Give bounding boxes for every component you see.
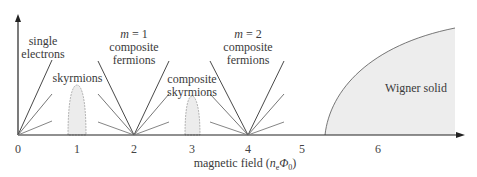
fan-at-0 <box>18 60 52 135</box>
x-tick-2: 2 <box>131 142 137 157</box>
y-axis-arrow <box>15 14 21 22</box>
label-rest: = 2 <box>243 27 262 41</box>
x-tick-0: 0 <box>15 142 21 157</box>
skyrmion-dome <box>68 85 86 135</box>
label-var: m <box>234 27 243 41</box>
x-axis-arrow <box>456 132 465 138</box>
label-skyrmions: skyrmions <box>50 72 105 85</box>
label-composite-skyrmions: composite skyrmions <box>163 73 221 99</box>
label-line: Wigner solid <box>381 82 451 95</box>
x-tick-6: 6 <box>375 142 381 157</box>
composite-skyrmion-dome <box>185 96 200 135</box>
x-tick-3: 3 <box>189 142 195 157</box>
label-line: fermions <box>219 54 277 67</box>
axis-label-phi: Φ <box>279 156 288 170</box>
fan-at-4 <box>210 61 284 135</box>
x-tick-4: 4 <box>245 142 251 157</box>
label-var: m <box>120 27 129 41</box>
label-single-electrons: single electrons <box>18 35 68 61</box>
label-line: fermions <box>105 54 163 67</box>
fan-at-2 <box>98 61 169 135</box>
phase-diagram: single electrons skyrmions m = 1 composi… <box>0 0 477 177</box>
label-line: skyrmions <box>50 72 105 85</box>
label-line: electrons <box>18 48 68 61</box>
x-axis-label: magnetic field (neΦ0) <box>180 157 310 174</box>
label-wigner-solid: Wigner solid <box>381 82 451 95</box>
axis-label-suffix: ) <box>292 156 296 170</box>
label-m2-composite-fermions: m = 2 composite fermions <box>219 28 277 67</box>
x-tick-5: 5 <box>299 142 305 157</box>
label-line: skyrmions <box>163 86 221 99</box>
label-rest: = 1 <box>129 27 148 41</box>
axis-label-prefix: magnetic field ( <box>194 156 270 170</box>
label-m1-composite-fermions: m = 1 composite fermions <box>105 28 163 67</box>
x-tick-1: 1 <box>74 142 80 157</box>
